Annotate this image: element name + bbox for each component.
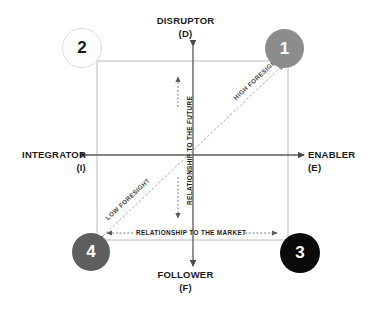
pole-label-enabler: ENABLER (E) bbox=[308, 148, 370, 174]
quadrant-node-3[interactable]: 3 bbox=[280, 233, 320, 273]
quadrant-node-4[interactable]: 4 bbox=[72, 233, 110, 271]
quadrant-node-3-label: 3 bbox=[295, 243, 304, 263]
pole-label-integrator-code: (I) bbox=[8, 161, 86, 174]
quadrant-node-1[interactable]: 1 bbox=[265, 29, 304, 68]
pole-label-enabler-code: (E) bbox=[308, 161, 370, 174]
quadrant-diagram: DISRUPTOR (D) FOLLOWER (F) INTEGRATOR (I… bbox=[0, 0, 371, 310]
pole-label-integrator-name: INTEGRATOR bbox=[22, 149, 86, 160]
pole-label-enabler-name: ENABLER bbox=[308, 149, 355, 160]
pole-label-follower-name: FOLLOWER bbox=[158, 269, 214, 280]
quadrant-node-4-label: 4 bbox=[86, 242, 95, 262]
quadrant-node-1-label: 1 bbox=[280, 39, 289, 59]
quadrant-node-2-label: 2 bbox=[77, 38, 86, 58]
pole-label-disruptor-code: (D) bbox=[0, 27, 371, 40]
pole-label-integrator: INTEGRATOR (I) bbox=[8, 148, 86, 174]
axis-label-relationship-to-the-future: RELATIONSHIP TO THE FUTURE bbox=[186, 96, 193, 205]
axis-label-relationship-to-the-market: RELATIONSHIP TO THE MARKET bbox=[136, 229, 246, 236]
quadrant-node-2[interactable]: 2 bbox=[62, 28, 102, 68]
pole-label-disruptor-name: DISRUPTOR bbox=[157, 15, 215, 26]
pole-label-follower-code: (F) bbox=[0, 281, 371, 294]
pole-label-follower: FOLLOWER (F) bbox=[0, 268, 371, 294]
pole-label-disruptor: DISRUPTOR (D) bbox=[0, 14, 371, 40]
